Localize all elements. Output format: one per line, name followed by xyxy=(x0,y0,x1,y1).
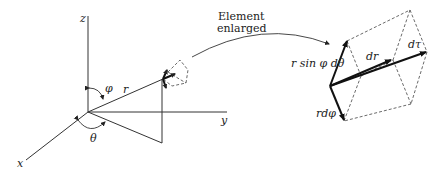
theta-edge-label: r sin φ dθ xyxy=(291,57,345,70)
dr-label: dr xyxy=(366,50,379,63)
theta-angle-arc xyxy=(78,120,105,129)
x-axis xyxy=(26,112,88,160)
x-axis-label: x xyxy=(17,157,24,170)
enlarge-callout-arrow xyxy=(192,34,329,57)
phi-edge-label: rdφ xyxy=(316,107,336,120)
small-volume-element xyxy=(163,60,188,88)
enlarged-volume-element xyxy=(330,10,427,121)
dtau-label: dτ xyxy=(408,38,422,51)
projection-line xyxy=(88,112,162,143)
z-axis-label: z xyxy=(79,12,86,25)
phi-label: φ xyxy=(105,82,113,95)
theta-label: θ xyxy=(90,132,97,145)
callout-line-2: enlarged xyxy=(217,22,267,35)
radius-label: r xyxy=(123,83,129,96)
spherical-coordinates-diagram: z y x φ θ r Element enlarged r sin φ dθ … xyxy=(0,0,443,175)
phi-angle-arc xyxy=(89,88,103,99)
y-axis-label: y xyxy=(220,114,228,127)
